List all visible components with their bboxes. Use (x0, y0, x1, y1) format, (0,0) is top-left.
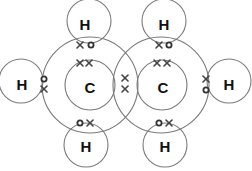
dot-electron-icon (41, 76, 46, 81)
dot-electron-icon (88, 42, 93, 47)
cross-electron-icon (122, 86, 128, 92)
ethane-dot-cross-diagram: C C H H H H H H (0, 0, 252, 171)
cross-electron-icon (122, 75, 128, 81)
h-top-left-label: H (80, 16, 91, 33)
h-bottom-left-label: H (81, 138, 92, 155)
dot-electron-icon (156, 120, 161, 125)
dot-electron-icon (203, 87, 208, 92)
dot-electron-icon (77, 120, 82, 125)
carbon-right-label: C (158, 79, 169, 96)
h-left-label: H (17, 76, 28, 93)
h-top-right-label: H (159, 16, 170, 33)
h-right-label: H (224, 76, 235, 93)
cross-electron-icon (86, 60, 92, 66)
cross-electron-icon (77, 42, 83, 48)
h-bottom-right-label: H (160, 138, 171, 155)
dot-electron-icon (166, 42, 171, 47)
carbon-left-label: C (85, 79, 96, 96)
